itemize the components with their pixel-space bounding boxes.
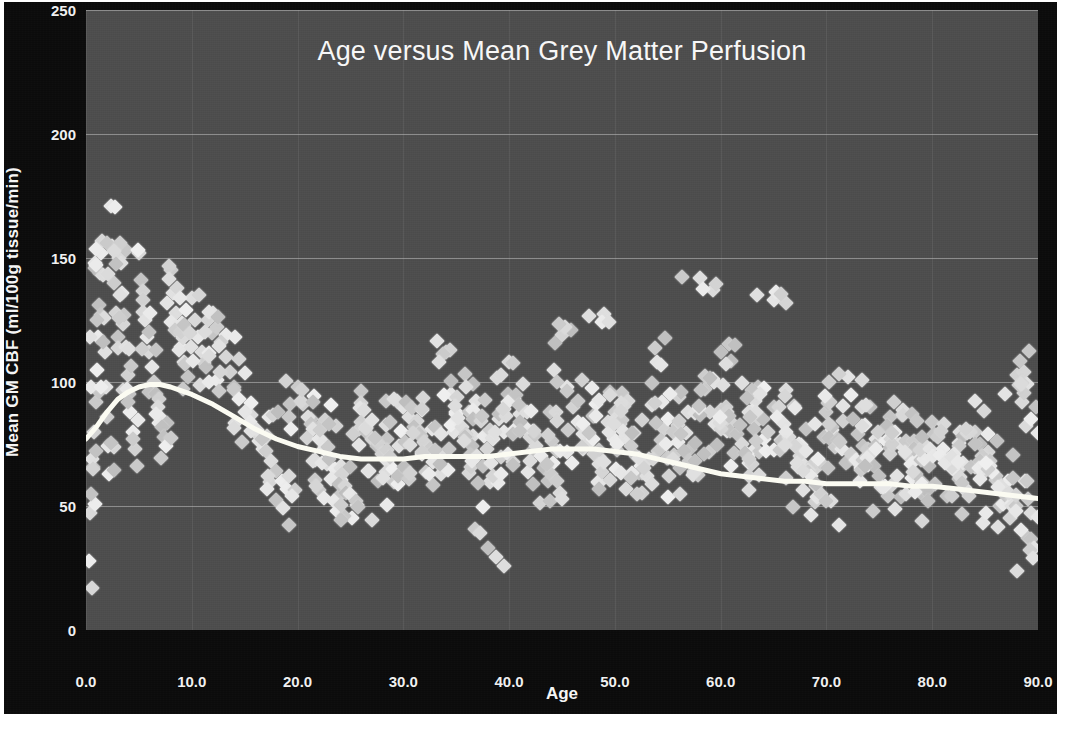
gridline-vertical (826, 10, 827, 630)
y-axis-ticks: 050100150200250 (4, 2, 82, 714)
gridline-vertical (298, 10, 299, 630)
figure-frame: Mean GM CBF (ml/100g tissue/min) 0501001… (4, 2, 1057, 714)
gridline-vertical (509, 10, 510, 630)
gridline-horizontal (86, 258, 1038, 259)
y-axis-tick-label: 250 (51, 2, 76, 19)
y-axis-tick-label: 100 (51, 374, 76, 391)
gridline-horizontal (86, 10, 1038, 11)
y-axis-tick-label: 0 (68, 622, 76, 639)
chart-title: Age versus Mean Grey Matter Perfusion (86, 36, 1038, 67)
gridline-horizontal (86, 134, 1038, 135)
chart-screenshot: Mean GM CBF (ml/100g tissue/min) 0501001… (0, 0, 1065, 737)
gridline-vertical (403, 10, 404, 630)
y-axis-tick-label: 200 (51, 126, 76, 143)
y-axis-tick-label: 150 (51, 250, 76, 267)
gridline-vertical (721, 10, 722, 630)
y-axis-tick-label: 50 (59, 498, 76, 515)
gridline-vertical (932, 10, 933, 630)
x-axis-label: Age (86, 684, 1038, 704)
gridline-vertical (86, 10, 87, 630)
plot-area: Age versus Mean Grey Matter Perfusion (86, 10, 1038, 630)
